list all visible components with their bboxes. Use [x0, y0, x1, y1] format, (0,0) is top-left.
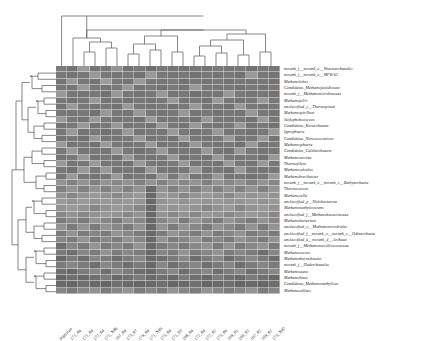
heatmap-cell — [168, 288, 179, 294]
heatmap-cell — [56, 288, 67, 294]
column-label: 173_X87 — [272, 326, 287, 341]
heatmap-figure: norank_f__norank_o__Woesearchaealesnoran… — [0, 0, 443, 341]
heatmap-cell — [269, 288, 280, 294]
column-label: 167_82 — [249, 328, 262, 341]
heatmap-cell — [202, 288, 213, 294]
column-label: 172_82 — [205, 328, 218, 341]
heatmap-cell — [258, 288, 269, 294]
heatmap-cell — [101, 288, 112, 294]
row-label: Methanoculleus — [282, 287, 443, 293]
heatmap-cell — [134, 288, 145, 294]
column-label: 160_82 — [238, 328, 251, 341]
column-label: 173_87 — [126, 328, 139, 341]
heatmap-cell — [67, 288, 78, 294]
column-label: 174_84 — [137, 328, 150, 341]
heatmap-cell — [179, 288, 190, 294]
heatmap-cell — [224, 288, 235, 294]
heatmap-cell — [112, 288, 123, 294]
row-label-list: norank_f__norank_o__Woesearchaealesnoran… — [282, 66, 443, 294]
column-dendrogram — [56, 8, 280, 66]
heatmap-cell — [90, 288, 101, 294]
heatmap-cell — [190, 288, 201, 294]
column-label: 172_84 — [93, 328, 106, 341]
row-dendrogram-svg — [8, 70, 56, 294]
column-dendrogram-svg — [56, 8, 280, 66]
heatmap-grid — [56, 66, 280, 294]
heatmap-cell — [146, 288, 157, 294]
column-label: 173_86 — [216, 328, 229, 341]
column-label-list: Injection171_86171_84172_84171_X86167_84… — [56, 295, 296, 341]
heatmap-cell — [246, 288, 257, 294]
heatmap-cell — [123, 288, 134, 294]
heatmap-cell — [78, 288, 89, 294]
column-label: 171_84 — [81, 328, 94, 341]
column-label: 168_84 — [182, 328, 195, 341]
heatmap-cell — [157, 288, 168, 294]
row-dendrogram — [8, 70, 56, 294]
column-label: 172_84 — [193, 328, 206, 341]
heatmap-cell — [235, 288, 246, 294]
heatmap-cell — [213, 288, 224, 294]
column-label: 169_82 — [261, 328, 274, 341]
